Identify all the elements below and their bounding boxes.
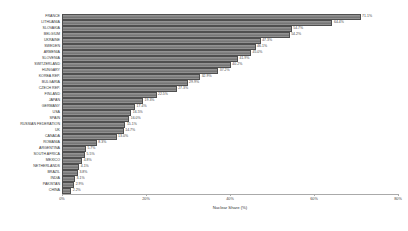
bar-row: BELGIUM54.2% bbox=[62, 32, 398, 37]
bar bbox=[62, 158, 82, 163]
category-label: GERMANY bbox=[42, 104, 60, 110]
plot-area: FRANCE71.1%LITHUANIA64.4%SLOVAKIA54.7%BE… bbox=[62, 14, 398, 194]
bar bbox=[62, 104, 135, 109]
category-label: ARMENIA bbox=[44, 50, 60, 56]
bar-value-label: 3.1% bbox=[77, 176, 85, 182]
bar-value-label: 46.1% bbox=[257, 44, 267, 50]
bar-value-label: 40.2% bbox=[232, 62, 242, 68]
x-tick-mark bbox=[314, 194, 315, 196]
category-label: UKRAINE bbox=[44, 38, 60, 44]
category-label: CZECH REP. bbox=[39, 86, 60, 92]
bar-value-label: 5.5% bbox=[87, 152, 95, 158]
bar-value-label: 15.1% bbox=[127, 122, 137, 128]
x-tick-mark bbox=[146, 194, 147, 196]
bar-row: HUNGARY37.2% bbox=[62, 68, 398, 73]
bar-value-label: 13.0% bbox=[118, 134, 128, 140]
bar bbox=[62, 134, 117, 139]
bar-value-label: 29.9% bbox=[189, 80, 199, 86]
bar-row: SLOVENIA41.9% bbox=[62, 56, 398, 61]
bar-row: MEXICO4.8% bbox=[62, 158, 398, 163]
category-label: SWEDEN bbox=[44, 44, 60, 50]
x-tick-mark bbox=[62, 194, 63, 196]
bar-row: UKRAINE47.3% bbox=[62, 38, 398, 43]
category-label: FINLAND bbox=[45, 92, 60, 98]
bar-row: ARGENTINA5.7% bbox=[62, 146, 398, 151]
bar bbox=[62, 62, 231, 67]
bar-row: FRANCE71.1% bbox=[62, 14, 398, 19]
bar-row: UK14.7% bbox=[62, 128, 398, 133]
category-label: SOUTH AFRICA bbox=[33, 152, 60, 158]
bar bbox=[62, 98, 143, 103]
bar-row: BRAZIL3.8% bbox=[62, 170, 398, 175]
bar-row: INDIA3.1% bbox=[62, 176, 398, 181]
bar bbox=[62, 188, 71, 193]
bar-value-label: 64.4% bbox=[334, 20, 344, 26]
bar bbox=[62, 110, 131, 115]
bar-row: PAKISTAN2.9% bbox=[62, 182, 398, 187]
bar bbox=[62, 176, 75, 181]
category-label: ARGENTINA bbox=[39, 146, 60, 152]
category-label: SLOVENIA bbox=[42, 56, 60, 62]
x-tick-mark bbox=[230, 194, 231, 196]
bar bbox=[62, 20, 332, 25]
bar-value-label: 45.0% bbox=[253, 50, 263, 56]
bar bbox=[62, 152, 85, 157]
x-tick-label: 0% bbox=[59, 197, 65, 201]
bar-row: CANADA13.0% bbox=[62, 134, 398, 139]
category-label: INDIA bbox=[50, 176, 60, 182]
category-label: SLOVAKIA bbox=[42, 26, 60, 32]
bar bbox=[62, 14, 361, 19]
category-label: ROMANIA bbox=[43, 140, 60, 146]
bar bbox=[62, 68, 218, 73]
bar bbox=[62, 92, 157, 97]
bar-row: CHINA2.2% bbox=[62, 188, 398, 193]
category-label: USA bbox=[53, 110, 60, 116]
bar-value-label: 22.5% bbox=[158, 92, 168, 98]
bar-row: FINLAND22.5% bbox=[62, 92, 398, 97]
bar bbox=[62, 122, 125, 127]
bar-row: GERMANY17.4% bbox=[62, 104, 398, 109]
bar-row: SWITZERLAND40.2% bbox=[62, 62, 398, 67]
bar-value-label: 16.5% bbox=[133, 110, 143, 116]
bar-value-label: 4.1% bbox=[81, 164, 89, 170]
category-label: CANADA bbox=[45, 134, 60, 140]
category-label: CHINA bbox=[49, 188, 60, 194]
category-label: SPAIN bbox=[49, 116, 60, 122]
x-tick-label: 60% bbox=[310, 197, 318, 201]
category-label: MEXICO bbox=[46, 158, 60, 164]
bar-row: ARMENIA45.0% bbox=[62, 50, 398, 55]
bar-value-label: 5.7% bbox=[87, 146, 95, 152]
bar-value-label: 54.7% bbox=[293, 26, 303, 32]
bar-row: NETHERLANDS4.1% bbox=[62, 164, 398, 169]
bar bbox=[62, 116, 129, 121]
x-tick-label: 80% bbox=[394, 197, 402, 201]
bar-row: JAPAN19.3% bbox=[62, 98, 398, 103]
nuclear-share-bar-chart: FRANCE71.1%LITHUANIA64.4%SLOVAKIA54.7%BE… bbox=[0, 0, 408, 231]
bar-value-label: 8.3% bbox=[98, 140, 106, 146]
category-label: NETHERLANDS bbox=[33, 164, 60, 170]
bar-row: SPAIN16.0% bbox=[62, 116, 398, 121]
bar-value-label: 47.3% bbox=[262, 38, 272, 44]
bar bbox=[62, 140, 97, 145]
bar bbox=[62, 170, 78, 175]
bar bbox=[62, 26, 292, 31]
bar bbox=[62, 146, 86, 151]
category-label: SWITZERLAND bbox=[34, 62, 60, 68]
x-axis-title: Nuclear Share (%) bbox=[62, 205, 398, 210]
bar-row: USA16.5% bbox=[62, 110, 398, 115]
chart-title bbox=[0, 1, 408, 8]
bar-value-label: 71.1% bbox=[362, 14, 372, 20]
category-label: JAPAN bbox=[49, 98, 60, 104]
category-label: BRAZIL bbox=[47, 170, 60, 176]
bar-row: KOREA REP.32.9% bbox=[62, 74, 398, 79]
bar-value-label: 32.9% bbox=[202, 74, 212, 80]
bar-value-label: 19.3% bbox=[145, 98, 155, 104]
bar-value-label: 2.9% bbox=[76, 182, 84, 188]
bar-row: BULGARIA29.9% bbox=[62, 80, 398, 85]
category-label: FRANCE bbox=[45, 14, 60, 20]
bar bbox=[62, 128, 124, 133]
bar-value-label: 14.7% bbox=[125, 128, 135, 134]
bar-value-label: 16.0% bbox=[131, 116, 141, 122]
category-label: PAKISTAN bbox=[43, 182, 60, 188]
bar bbox=[62, 74, 200, 79]
